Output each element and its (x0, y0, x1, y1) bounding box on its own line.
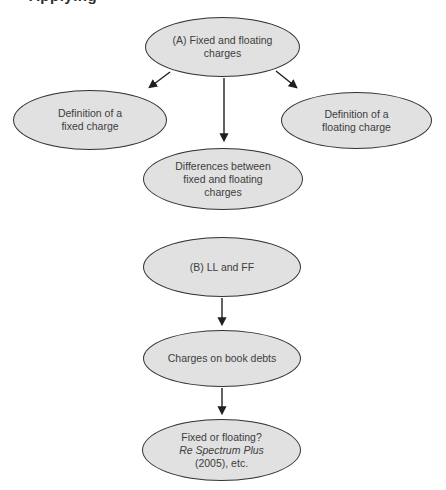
node-definition-of-floating-charge: Definition of a floating charge (281, 92, 432, 149)
diagram-canvas: Applying (A) Fixed and floating charges … (0, 0, 446, 490)
node-differences-between-charges: Differences between fixed and floating c… (143, 148, 303, 210)
cropped-page-header-text: Applying (29, 0, 169, 4)
node-fixed-or-floating-spectrum-plus: Fixed or floating? Re Spectrum Plus (200… (142, 419, 301, 481)
node-label-line: (A) Fixed and floating (173, 34, 273, 47)
node-label-line: charges (175, 186, 271, 199)
node-label-line: (B) LL and FF (190, 261, 254, 274)
node-label-line: Definition of a (322, 108, 391, 121)
node-label-case-name: Re Spectrum Plus (179, 444, 264, 457)
node-label-line: (2005), etc. (179, 457, 264, 470)
node-label-line: Differences between (175, 160, 271, 173)
node-label-line: Fixed or floating? (179, 431, 264, 444)
node-label-line: Definition of a (58, 107, 122, 120)
node-ll-and-ff: (B) LL and FF (143, 237, 301, 297)
node-fixed-and-floating-charges: (A) Fixed and floating charges (145, 17, 300, 77)
node-label-line: fixed and floating (175, 173, 271, 186)
arrow-a-to-definition-fixed (150, 72, 170, 87)
node-label-line: floating charge (322, 121, 391, 134)
arrow-a-to-definition-floating (276, 71, 296, 87)
node-definition-of-fixed-charge: Definition of a fixed charge (13, 90, 167, 150)
node-label-line: charges (173, 47, 273, 60)
node-label-line: Charges on book debts (168, 352, 277, 365)
node-charges-on-book-debts: Charges on book debts (143, 330, 301, 387)
node-label-line: fixed charge (58, 120, 122, 133)
